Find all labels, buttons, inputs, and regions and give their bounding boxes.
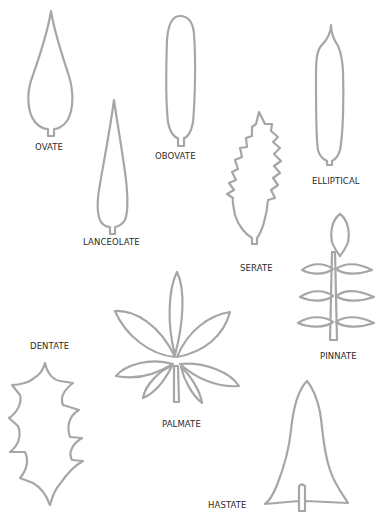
- label-pinnate: PINNATE: [320, 351, 357, 361]
- label-palmate: PALMATE: [162, 419, 201, 429]
- label-lanceolate: LANCEOLATE: [83, 237, 140, 247]
- obovate-leaf-icon: [166, 16, 195, 146]
- serate-leaf-icon: [227, 112, 281, 244]
- label-dentate: DENTATE: [30, 341, 69, 351]
- label-elliptical: ELLIPTICAL: [312, 176, 360, 186]
- label-ovate: OVATE: [35, 142, 63, 152]
- lanceolate-leaf-icon: [98, 100, 128, 234]
- ovate-leaf-icon: [28, 11, 72, 136]
- dentate-leaf-icon: [9, 363, 83, 505]
- elliptical-leaf-icon: [316, 25, 343, 165]
- palmate-leaf-icon: [115, 272, 239, 403]
- label-obovate: OBOVATE: [155, 151, 196, 161]
- pinnate-leaf-icon: [298, 214, 374, 340]
- label-hastate: HASTATE: [208, 500, 247, 510]
- label-serate: SERATE: [240, 263, 273, 273]
- hastate-leaf-icon: [265, 381, 348, 511]
- leaf-shapes-diagram: OVATE OBOVATE LANCEOLATE ELLIPTICAL SERA…: [0, 0, 388, 526]
